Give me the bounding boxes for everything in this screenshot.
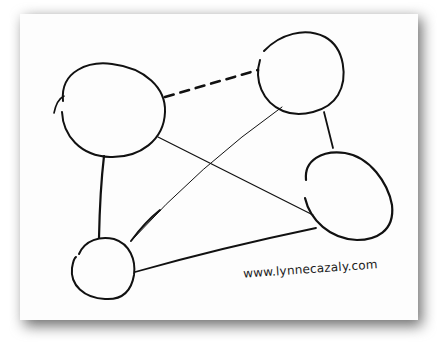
node-d — [72, 238, 135, 299]
edge-a-b-dashed — [165, 70, 258, 97]
edge-b-d — [131, 107, 282, 241]
node-a — [62, 63, 165, 157]
diagram-canvas: www.lynnecazaly.com — [0, 0, 438, 343]
edge-a-c — [158, 137, 313, 215]
node-b — [258, 32, 343, 113]
network-diagram — [0, 0, 438, 343]
edge-a-d — [99, 156, 104, 238]
edge-b-c — [324, 112, 333, 148]
node-c — [305, 152, 392, 240]
